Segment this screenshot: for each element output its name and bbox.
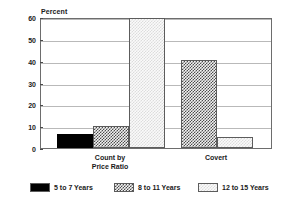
y-axis-tick-label: 40 (2, 58, 36, 65)
x-axis-label-line: Price Ratio (92, 163, 129, 172)
y-axis-tick-label: 60 (2, 15, 36, 22)
y-axis-tick-label: 0 (2, 146, 36, 153)
bar (57, 134, 93, 148)
plot-area (40, 18, 272, 149)
legend-label: 8 to 11 Years (138, 184, 180, 191)
chart-legend: 5 to 7 Years8 to 11 Years12 to 15 Years (30, 183, 270, 197)
y-axis-title: Percent (41, 8, 67, 15)
legend-item[interactable]: 12 to 15 Years (198, 183, 269, 192)
y-axis-tick-mark (40, 62, 43, 63)
y-axis-tick-mark (40, 84, 43, 85)
y-axis-tick-mark (40, 149, 43, 150)
y-axis-tick-mark (40, 40, 43, 41)
y-axis-tick-label: 30 (2, 80, 36, 87)
y-axis-tick-mark (40, 18, 43, 19)
y-axis-tick-label: 50 (2, 36, 36, 43)
legend-item[interactable]: 8 to 11 Years (114, 183, 180, 192)
bar (217, 137, 253, 148)
y-axis-tick-mark (40, 127, 43, 128)
x-axis-category-label: Count byPrice Ratio (92, 154, 129, 171)
legend-item[interactable]: 5 to 7 Years (30, 183, 93, 192)
x-axis-category-label: Covert (205, 154, 227, 163)
bar (93, 126, 129, 148)
x-axis-label-line: Count by (92, 154, 129, 163)
y-axis-tick-mark (40, 105, 43, 106)
bar (129, 18, 165, 148)
y-axis-tick-label: 10 (2, 124, 36, 131)
legend-label: 12 to 15 Years (222, 184, 269, 191)
y-axis-tick-label: 20 (2, 102, 36, 109)
legend-swatch-icon (30, 183, 50, 192)
bar (181, 60, 217, 148)
legend-label: 5 to 7 Years (54, 184, 93, 191)
legend-swatch-icon (114, 183, 134, 192)
x-axis-label-line: Covert (205, 154, 227, 163)
bar-chart: Percent 0102030405060 Count byPrice Rati… (0, 0, 295, 207)
legend-swatch-icon (198, 183, 218, 192)
